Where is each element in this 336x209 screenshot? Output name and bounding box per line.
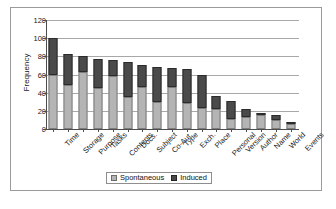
bar-slot <box>283 20 298 129</box>
bar-segment-induced <box>167 68 176 87</box>
stacked-bar[interactable] <box>93 59 102 129</box>
bar-segment-spontaneous <box>79 72 88 129</box>
y-tick-label: 40 <box>18 89 46 96</box>
bar-segment-spontaneous <box>93 88 102 129</box>
y-tick-label: 0 <box>18 126 46 133</box>
bar-slot <box>90 20 105 129</box>
bar-group <box>46 20 298 129</box>
legend-label-spontaneous: Spontaneous <box>120 174 164 182</box>
bar-segment-induced <box>242 109 251 117</box>
y-tick-label: 100 <box>18 35 46 42</box>
bar-slot <box>209 20 224 129</box>
bar-segment-spontaneous <box>182 103 191 129</box>
bar-segment-spontaneous <box>138 87 147 129</box>
legend-entry-induced: Induced <box>171 174 207 182</box>
legend-entry-spontaneous: Spontaneous <box>111 174 164 182</box>
bar-segment-induced <box>212 96 221 109</box>
stacked-bar[interactable] <box>153 67 162 129</box>
stacked-bar[interactable] <box>212 96 221 129</box>
stacked-bar[interactable] <box>256 113 265 129</box>
bar-segment-spontaneous <box>49 75 58 129</box>
bar-segment-induced <box>227 101 236 119</box>
x-tick-label: Time <box>64 131 81 148</box>
bar-segment-induced <box>79 56 88 71</box>
stacked-bar[interactable] <box>123 62 132 129</box>
bar-slot <box>61 20 76 129</box>
bar-slot <box>239 20 254 129</box>
bar-slot <box>46 20 61 129</box>
chart-legend: Spontaneous Induced <box>106 172 212 184</box>
stacked-bar[interactable] <box>197 75 206 129</box>
stacked-bar[interactable] <box>271 115 280 129</box>
stacked-bar[interactable] <box>64 54 73 129</box>
bar-segment-induced <box>64 54 73 86</box>
bar-segment-spontaneous <box>242 117 251 129</box>
bar-segment-spontaneous <box>108 76 117 129</box>
bar-segment-spontaneous <box>256 115 265 129</box>
bar-segment-induced <box>182 69 191 103</box>
stacked-bar[interactable] <box>49 38 58 129</box>
stacked-bar[interactable] <box>227 101 236 129</box>
bar-segment-induced <box>93 59 102 88</box>
stacked-bar[interactable] <box>79 56 88 129</box>
legend-swatch-spontaneous-icon <box>111 175 117 181</box>
legend-label-induced: Induced <box>180 174 207 182</box>
bar-slot <box>179 20 194 129</box>
bar-segment-induced <box>197 75 206 109</box>
bar-slot <box>135 20 150 129</box>
y-axis: Frequency 020406080100120 <box>12 20 46 130</box>
legend-swatch-induced-icon <box>171 175 177 181</box>
bar-slot <box>150 20 165 129</box>
y-tick-label: 80 <box>18 53 46 60</box>
stacked-bar[interactable] <box>108 60 117 129</box>
bar-slot <box>76 20 91 129</box>
bar-slot <box>268 20 283 129</box>
y-tick-label: 120 <box>18 17 46 24</box>
bar-slot <box>165 20 180 129</box>
stacked-bar[interactable] <box>138 65 147 129</box>
bar-segment-spontaneous <box>227 119 236 129</box>
bar-segment-induced <box>138 65 147 87</box>
bar-segment-induced <box>123 62 132 97</box>
stacked-bar[interactable] <box>182 69 191 129</box>
bar-slot <box>105 20 120 129</box>
bar-segment-induced <box>153 67 162 102</box>
bar-slot <box>194 20 209 129</box>
x-axis-labels: TimeStoragePurposeTasksContentsDocs.Subj… <box>46 131 298 173</box>
x-tick-label: Place <box>213 131 232 150</box>
bar-segment-induced <box>49 38 58 75</box>
bar-segment-spontaneous <box>64 85 73 129</box>
bar-slot <box>254 20 269 129</box>
bar-slot <box>120 20 135 129</box>
y-tick-label: 60 <box>18 71 46 78</box>
bar-segment-spontaneous <box>123 97 132 129</box>
bar-segment-spontaneous <box>197 108 206 129</box>
stacked-bar[interactable] <box>242 109 251 129</box>
figure-container: Frequency 020406080100120 TimeStoragePur… <box>0 0 336 209</box>
bar-slot <box>224 20 239 129</box>
bar-segment-spontaneous <box>167 87 176 129</box>
bar-segment-spontaneous <box>153 102 162 129</box>
stacked-bar[interactable] <box>167 68 176 129</box>
y-tick-label: 20 <box>18 107 46 114</box>
bar-segment-induced <box>108 60 117 76</box>
bar-segment-spontaneous <box>271 120 280 129</box>
bar-segment-spontaneous <box>212 109 221 129</box>
